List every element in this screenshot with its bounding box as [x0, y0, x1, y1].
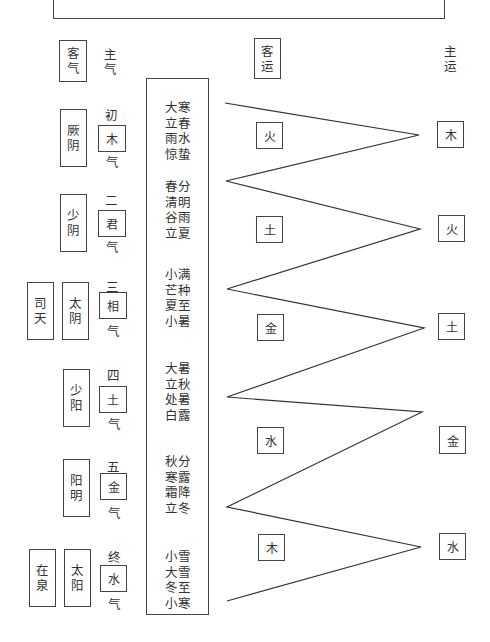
guest-yun-0: 火	[256, 122, 283, 149]
guest-yun-1: 土	[256, 216, 283, 243]
host-yun-0: 木	[437, 121, 464, 148]
host-yun-1: 火	[438, 215, 465, 242]
host-yun-3: 金	[439, 426, 466, 454]
zigzag-connector	[0, 0, 490, 642]
guest-yun-4: 木	[258, 534, 285, 561]
host-yun-2: 土	[438, 313, 465, 340]
guest-yun-3: 水	[257, 427, 284, 454]
host-yun-4: 水	[439, 533, 466, 560]
guest-yun-2: 金	[257, 314, 284, 341]
